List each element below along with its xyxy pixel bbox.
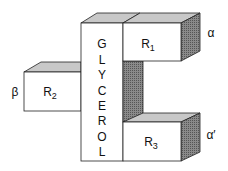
alpha-label: α <box>208 26 215 40</box>
glycerol-letter: R <box>98 114 107 128</box>
backbone-side-face <box>123 61 143 122</box>
alpha-prime-label: α′ <box>206 128 216 142</box>
glycerol-letter: C <box>98 84 107 98</box>
glycerol-letter: L <box>99 145 106 159</box>
glycerol-letter: Y <box>98 68 106 82</box>
r2-top-face <box>24 62 81 72</box>
glycerol-letter: G <box>97 37 106 51</box>
glycerol-letter: L <box>99 53 106 67</box>
glycerol-letter: O <box>97 130 106 144</box>
beta-label: β <box>12 85 19 99</box>
glycerol-letter: E <box>98 99 106 113</box>
triglyceride-diagram: G L Y C E R O L R1 R2 R3 α β α′ <box>0 0 228 171</box>
r1-block <box>123 23 181 61</box>
